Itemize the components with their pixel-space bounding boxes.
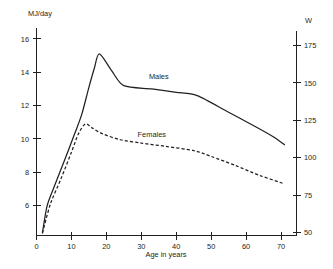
- left-tick-label: 16: [21, 35, 29, 44]
- bottom-tick-label: 0: [34, 242, 38, 251]
- left-axis-title: MJ/day: [28, 9, 52, 18]
- bottom-axis-ticks: 010203040506070: [34, 232, 285, 252]
- left-tick-label: 6: [25, 201, 29, 210]
- right-tick-label: 100: [304, 153, 316, 162]
- left-axis-ticks: 6810121416: [21, 35, 41, 211]
- series-label-females: Females: [138, 130, 167, 139]
- right-axis-title: W: [305, 16, 312, 25]
- right-tick-label: 125: [304, 116, 316, 125]
- bottom-tick-label: 30: [137, 242, 145, 251]
- right-tick-label: 175: [304, 41, 316, 50]
- bottom-tick-label: 10: [67, 242, 75, 251]
- right-axis-group: 5075100125150175 W: [293, 16, 317, 237]
- bottom-tick-label: 50: [207, 242, 215, 251]
- bottom-axis-group: 010203040506070 Age in years: [34, 232, 296, 260]
- right-tick-label: 50: [304, 228, 312, 237]
- energy-expenditure-chart: 6810121416 MJ/day 010203040506070 Age in…: [0, 0, 333, 269]
- bottom-tick-label: 20: [102, 242, 110, 251]
- left-tick-label: 8: [25, 168, 29, 177]
- left-tick-label: 10: [21, 135, 29, 144]
- left-tick-label: 14: [21, 68, 29, 77]
- bottom-tick-label: 60: [242, 242, 250, 251]
- right-tick-label: 150: [304, 79, 316, 88]
- left-axis-group: 6810121416 MJ/day: [21, 9, 52, 236]
- left-tick-label: 12: [21, 101, 29, 110]
- series-labels-group: MalesFemales: [138, 72, 169, 139]
- bottom-axis-title: Age in years: [145, 250, 186, 259]
- bottom-tick-label: 70: [277, 242, 285, 251]
- series-line-females: [42, 124, 284, 233]
- series-label-males: Males: [149, 72, 169, 81]
- chart-page: 6810121416 MJ/day 010203040506070 Age in…: [0, 0, 333, 269]
- right-tick-label: 75: [304, 191, 312, 200]
